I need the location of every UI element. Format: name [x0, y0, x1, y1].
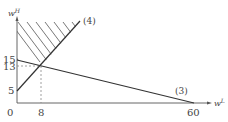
y-axis-label: wH — [8, 7, 21, 18]
line-3 — [17, 60, 194, 103]
x-tick-8: 8 — [38, 107, 44, 118]
line-3-label: (3) — [175, 86, 188, 96]
x-axis-arrow-icon — [207, 102, 212, 105]
y-tick-5: 5 — [8, 85, 14, 96]
constraint-diagram: wH wL 15 13 5 0 8 60 (4) (3) — [0, 0, 228, 122]
x-tick-60: 60 — [187, 107, 200, 118]
line-4-label: (4) — [83, 16, 96, 26]
x-axis-label: wL — [214, 97, 225, 108]
y-axis-arrow-icon — [16, 16, 19, 21]
y-tick-13: 13 — [3, 61, 16, 72]
line-4 — [17, 21, 80, 91]
origin-label: 0 — [7, 107, 13, 118]
